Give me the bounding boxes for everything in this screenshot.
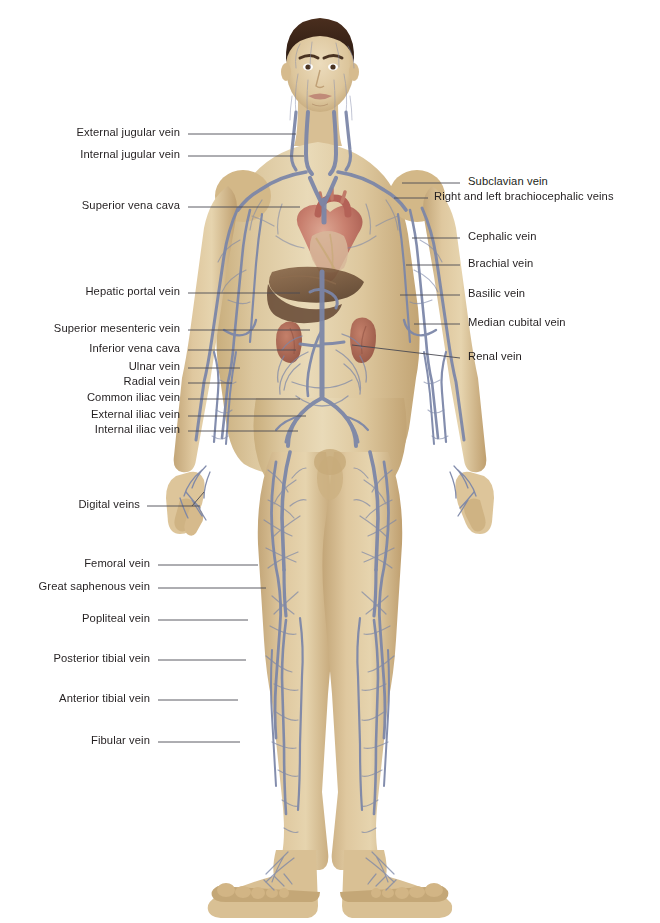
label-popliteal-vein: Popliteal vein bbox=[82, 612, 150, 625]
label-superior-vena-cava: Superior vena cava bbox=[82, 199, 180, 212]
head bbox=[281, 18, 359, 112]
label-basilic-vein: Basilic vein bbox=[468, 287, 525, 300]
vein-ulnar-left bbox=[214, 352, 219, 442]
label-internal-iliac-vein: Internal iliac vein bbox=[95, 423, 180, 436]
label-digital-veins: Digital veins bbox=[78, 498, 140, 511]
vein-anatomy-figure: External jugular veinInternal jugular ve… bbox=[0, 0, 660, 923]
body-figure bbox=[147, 18, 494, 918]
label-external-iliac-vein: External iliac vein bbox=[91, 408, 180, 421]
label-median-cubital-vein: Median cubital vein bbox=[468, 316, 566, 329]
label-ulnar-vein: Ulnar vein bbox=[129, 360, 180, 373]
label-common-iliac-vein: Common iliac vein bbox=[87, 391, 180, 404]
label-renal-vein: Renal vein bbox=[468, 350, 522, 363]
label-right-and-left-brachiocephalic-veins: Right and left brachiocephalic veins bbox=[434, 190, 614, 203]
vein-ulnar-right bbox=[442, 352, 447, 442]
label-anterior-tibial-vein: Anterior tibial vein bbox=[59, 692, 150, 705]
label-radial-vein: Radial vein bbox=[124, 375, 180, 388]
label-superior-mesenteric-vein: Superior mesenteric vein bbox=[54, 322, 180, 335]
label-posterior-tibial-vein: Posterior tibial vein bbox=[53, 652, 150, 665]
label-cephalic-vein: Cephalic vein bbox=[468, 230, 536, 243]
label-subclavian-vein: Subclavian vein bbox=[468, 175, 548, 188]
label-femoral-vein: Femoral vein bbox=[84, 557, 150, 570]
label-external-jugular-vein: External jugular vein bbox=[77, 126, 180, 139]
label-brachial-vein: Brachial vein bbox=[468, 257, 533, 270]
label-hepatic-portal-vein: Hepatic portal vein bbox=[85, 285, 180, 298]
label-internal-jugular-vein: Internal jugular vein bbox=[80, 148, 180, 161]
label-fibular-vein: Fibular vein bbox=[91, 734, 150, 747]
label-inferior-vena-cava: Inferior vena cava bbox=[89, 342, 180, 355]
label-great-saphenous-vein: Great saphenous vein bbox=[39, 580, 150, 593]
